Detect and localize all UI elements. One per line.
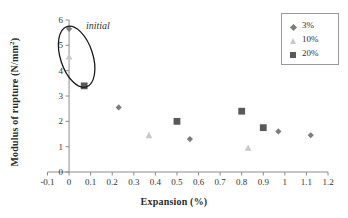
- x-tick-label: 0.9: [258, 178, 269, 187]
- data-point-diamond: [187, 136, 193, 142]
- x-tick-label: 1.1: [301, 178, 312, 187]
- x-tick-label: -0.1: [40, 178, 54, 187]
- data-point-square: [81, 82, 88, 89]
- x-tick-label: 0.5: [171, 178, 182, 187]
- chart-legend: 3% 10% 20%: [281, 13, 339, 65]
- data-point-diamond: [308, 132, 314, 138]
- x-tick-label: 0.4: [150, 178, 161, 187]
- y-axis-title-main: Modulus of rupture (N/mm: [9, 45, 20, 167]
- data-point-square: [260, 124, 267, 131]
- x-tick-label: 0.3: [128, 178, 139, 187]
- chart-figure: -0.100.10.20.30.40.50.60.70.80.911.11.2 …: [0, 0, 348, 218]
- x-tick-label: 0: [67, 178, 72, 187]
- x-tick-label: 1: [283, 178, 288, 187]
- data-point-square: [174, 118, 181, 125]
- initial-group-ellipse: [51, 22, 101, 92]
- x-tick-label: 0.6: [193, 178, 204, 187]
- x-tick-label: 0.8: [236, 178, 247, 187]
- legend-item-3: 3%: [287, 18, 333, 32]
- x-tick-label: 0.7: [214, 178, 225, 187]
- y-tick-label: 5: [51, 41, 63, 50]
- data-point-square: [238, 108, 245, 115]
- x-tick-label: 1.2: [322, 178, 333, 187]
- data-point-triangle: [245, 145, 252, 151]
- legend-label-10: 10%: [302, 35, 319, 44]
- y-tick-label: 1: [51, 142, 63, 151]
- y-tick-label: 2: [51, 117, 63, 126]
- y-axis-title-superscript: 2: [8, 41, 16, 45]
- y-tick-label: 6: [51, 16, 63, 25]
- initial-annotation-label: initial: [86, 20, 110, 31]
- legend-label-20: 20%: [302, 49, 319, 58]
- data-point-triangle: [146, 132, 153, 138]
- data-point-triangle: [66, 53, 73, 59]
- y-tick-label: 3: [51, 92, 63, 101]
- legend-label-3: 3%: [302, 21, 314, 30]
- data-point-diamond: [275, 128, 281, 134]
- square-marker-icon: [287, 44, 299, 62]
- y-axis-title-tail: ): [9, 38, 20, 42]
- x-tick-label: 0.2: [107, 178, 118, 187]
- y-tick-label: 0: [51, 168, 63, 177]
- legend-item-20: 20%: [287, 46, 333, 60]
- y-axis-title: Modulus of rupture (N/mm2): [8, 22, 20, 182]
- data-point-diamond: [116, 104, 122, 110]
- x-tick-label: 0.1: [85, 178, 96, 187]
- y-tick-label: 4: [51, 66, 63, 75]
- x-axis-title: Expansion (%): [0, 196, 348, 207]
